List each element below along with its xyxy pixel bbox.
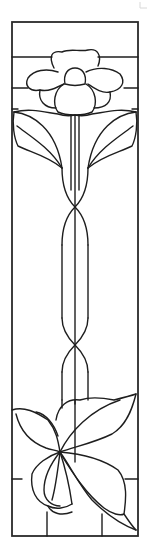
top-bands — [12, 57, 138, 109]
flower-head — [27, 50, 123, 115]
bottom-panes — [12, 479, 138, 536]
stained-glass-artwork — [0, 0, 150, 557]
bottom-leaves — [12, 394, 136, 530]
stained-glass-panel — [0, 0, 150, 557]
corner-mark — [140, 2, 147, 8]
stem — [62, 115, 88, 462]
